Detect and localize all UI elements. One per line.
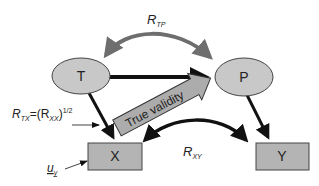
r-tx-formula: RTX=(RXX)1/2 <box>12 107 72 122</box>
node-t-label: T <box>77 68 86 84</box>
p-to-y-arrow <box>247 95 268 137</box>
r-xy-arc <box>145 120 246 140</box>
node-x-label: X <box>110 148 120 164</box>
t-to-x-arrow <box>89 93 113 137</box>
r-xy-label: RXY <box>183 144 203 160</box>
node-p-label: P <box>239 69 248 85</box>
u-y-pointer-arrow <box>65 161 87 169</box>
node-y-label: Y <box>277 148 287 164</box>
u-y-label: uy <box>47 161 58 177</box>
r-tp-label: RTP <box>147 12 166 28</box>
r-tp-arc <box>106 34 210 57</box>
validity-diagram: True validity T P X Y RTP RXY RTX=(RXX)1… <box>0 0 319 186</box>
